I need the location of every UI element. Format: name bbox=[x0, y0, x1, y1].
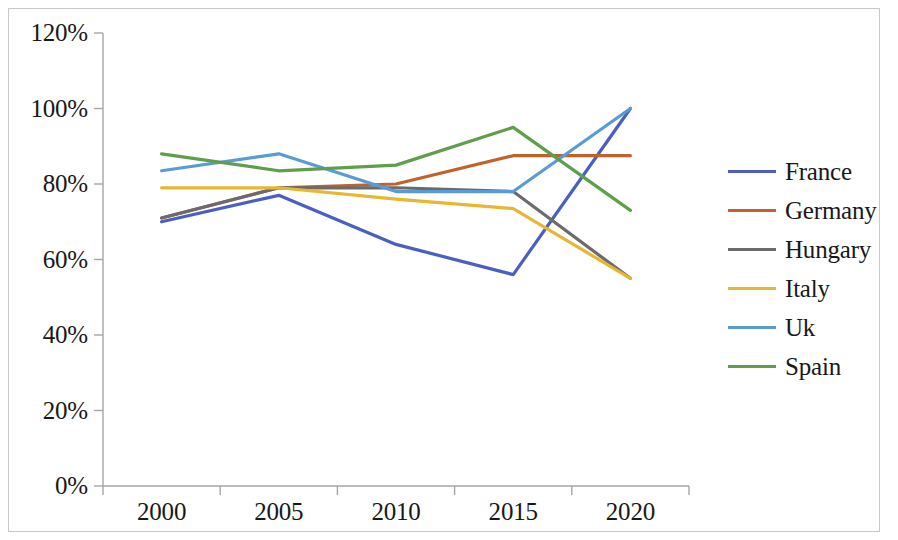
x-axis-tick-label: 2000 bbox=[137, 498, 186, 526]
x-axis-tick-label: 2010 bbox=[371, 498, 420, 526]
legend-swatch-icon bbox=[728, 248, 776, 251]
legend-swatch-icon bbox=[728, 287, 776, 290]
series-line-uk bbox=[162, 109, 631, 192]
x-axis-tick-label: 2005 bbox=[254, 498, 303, 526]
series-line-hungary bbox=[162, 188, 631, 279]
x-axis-tick-label: 2015 bbox=[489, 498, 538, 526]
legend-swatch-icon bbox=[728, 365, 776, 368]
y-axis-tick-label: 60% bbox=[0, 246, 88, 274]
legend-label: Hungary bbox=[785, 237, 871, 262]
legend-label: Germany bbox=[785, 198, 877, 223]
y-axis-ticks bbox=[94, 33, 103, 486]
legend-item-france[interactable]: France bbox=[728, 152, 877, 191]
y-axis-tick-label: 80% bbox=[0, 170, 88, 198]
y-axis-tick-label: 0% bbox=[0, 472, 88, 500]
data-series-group bbox=[162, 109, 631, 279]
y-axis-tick-label: 100% bbox=[0, 95, 88, 123]
legend-item-germany[interactable]: Germany bbox=[728, 191, 877, 230]
legend-item-hungary[interactable]: Hungary bbox=[728, 230, 877, 269]
legend-item-uk[interactable]: Uk bbox=[728, 308, 877, 347]
legend-swatch-icon bbox=[728, 170, 776, 173]
x-axis-ticks bbox=[103, 486, 689, 495]
legend-item-italy[interactable]: Italy bbox=[728, 269, 877, 308]
chart-legend: FranceGermanyHungaryItalyUkSpain bbox=[728, 152, 877, 386]
y-axis-tick-label: 20% bbox=[0, 397, 88, 425]
x-axis-tick-label: 2020 bbox=[606, 498, 655, 526]
y-axis-tick-label: 40% bbox=[0, 321, 88, 349]
y-axis-tick-label: 120% bbox=[0, 19, 88, 47]
legend-label: Spain bbox=[785, 354, 841, 379]
legend-item-spain[interactable]: Spain bbox=[728, 347, 877, 386]
legend-label: Uk bbox=[785, 315, 815, 340]
legend-swatch-icon bbox=[728, 326, 776, 329]
legend-label: France bbox=[785, 159, 852, 184]
legend-swatch-icon bbox=[728, 209, 776, 212]
legend-label: Italy bbox=[785, 276, 830, 301]
